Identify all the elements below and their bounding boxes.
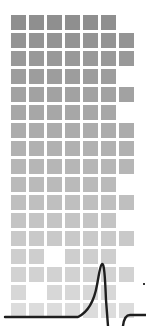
heartbeat-grid-illustration — [0, 0, 146, 326]
tick-mark — [143, 283, 145, 285]
ecg-pulse-line-icon — [0, 0, 146, 326]
pulse-path — [5, 264, 146, 326]
